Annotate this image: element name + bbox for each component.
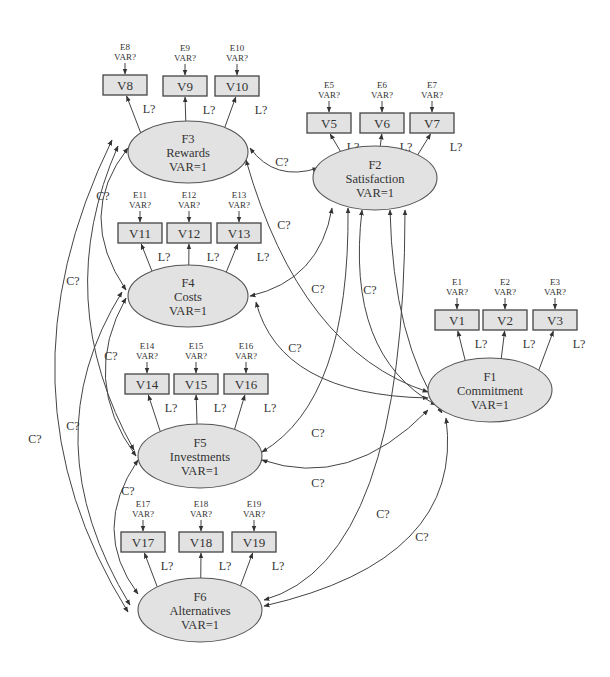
loading-arrow [501, 331, 504, 359]
factor-rewards[interactable]: F3RewardsVAR=1 [128, 121, 248, 183]
loading-arrow [225, 97, 236, 127]
indicator-v12: E12VAR?V12L? [167, 190, 219, 265]
error-term-label: E6 [377, 80, 387, 90]
error-variance-label: VAR? [228, 200, 250, 210]
loading-arrow [148, 395, 160, 431]
error-variance-label: VAR? [185, 351, 207, 361]
factor-name: Alternatives [169, 604, 230, 618]
indicator-v7: E7VAR?V7L? [410, 80, 462, 155]
indicator-label: V2 [497, 313, 513, 328]
indicator-v14: E14VAR?V14L? [125, 341, 177, 431]
loading-label: L? [255, 103, 268, 117]
loading-label: L? [203, 103, 216, 117]
factor-id: F5 [193, 436, 206, 450]
error-variance-label: VAR? [132, 509, 154, 519]
indicator-label: V12 [178, 226, 200, 241]
covariance-label: C? [311, 282, 324, 296]
error-variance-label: VAR? [129, 200, 151, 210]
indicator-v1: E1VAR?V1L? [435, 277, 487, 361]
factor-investments[interactable]: F5InvestmentsVAR=1 [138, 424, 262, 488]
indicator-v19: E19VAR?V19L? [232, 499, 284, 586]
factor-satisfaction[interactable]: F2SatisfactionVAR=1 [313, 146, 437, 210]
factor-costs[interactable]: F4CostsVAR=1 [128, 265, 248, 327]
indicator-v3: E3VAR?V3L? [533, 277, 585, 370]
error-term-label: E17 [136, 499, 151, 509]
indicator-label: V8 [117, 78, 133, 93]
indicator-label: V16 [235, 377, 258, 392]
covariance-label: C? [66, 419, 79, 433]
factor-alternatives[interactable]: F6AlternativesVAR=1 [138, 578, 262, 642]
indicator-label: V5 [321, 116, 337, 131]
loading-label: L? [207, 250, 220, 264]
loading-label: L? [158, 250, 171, 264]
loading-label: L? [257, 250, 270, 264]
loading-label: L? [264, 401, 277, 415]
indicator-v13: E13VAR?V13L? [217, 190, 269, 272]
loading-arrow [196, 395, 197, 424]
error-variance-label: VAR? [190, 509, 212, 519]
loading-label: L? [573, 337, 586, 351]
loading-label: L? [214, 401, 227, 415]
indicator-v9: E9VAR?V9L? [163, 43, 215, 121]
error-term-label: E9 [180, 43, 190, 53]
covariance-label: C? [277, 218, 290, 232]
loading-arrow [226, 244, 237, 272]
covariance-label: C? [376, 507, 389, 521]
error-variance-label: VAR? [446, 287, 468, 297]
indicator-label: V19 [243, 535, 265, 550]
loading-label: L? [219, 559, 232, 573]
error-term-label: E19 [247, 499, 262, 509]
error-term-label: E5 [324, 80, 334, 90]
loading-label: L? [165, 401, 178, 415]
covariance-label: C? [96, 189, 109, 203]
indicator-label: V17 [132, 535, 155, 550]
indicator-label: V3 [547, 313, 563, 328]
factor-id: F6 [193, 590, 206, 604]
error-term-label: E18 [194, 499, 209, 509]
indicator-v18: E18VAR?V18L? [179, 499, 231, 578]
error-term-label: E1 [452, 277, 462, 287]
covariance-label: C? [288, 341, 301, 355]
loading-label: L? [272, 559, 285, 573]
loading-arrow [141, 244, 152, 271]
loading-arrow [127, 96, 141, 133]
indicator-label: V18 [190, 535, 212, 550]
indicator-v11: E11VAR?V11L? [118, 190, 170, 271]
error-variance-label: VAR? [136, 351, 158, 361]
loading-arrow [418, 134, 431, 155]
error-variance-label: VAR? [243, 509, 265, 519]
factor-variance: VAR=1 [169, 304, 207, 318]
factor-id: F3 [181, 132, 194, 146]
error-variance-label: VAR? [371, 90, 393, 100]
error-variance-label: VAR? [494, 287, 516, 297]
covariance-label: C? [311, 476, 324, 490]
error-term-label: E13 [232, 190, 247, 200]
factor-variance: VAR=1 [471, 398, 509, 412]
loading-arrow [235, 395, 245, 429]
loading-label: L? [450, 140, 463, 154]
factor-commitment[interactable]: F1CommitmentVAR=1 [428, 358, 552, 422]
error-term-label: E14 [140, 341, 155, 351]
covariance-label: C? [121, 484, 134, 498]
covariance-label: C? [363, 283, 376, 297]
error-term-label: E12 [182, 190, 197, 200]
error-term-label: E11 [133, 190, 147, 200]
factor-variance: VAR=1 [181, 464, 219, 478]
factor-id: F1 [483, 370, 496, 384]
indicator-v10: E10VAR?V10L? [215, 43, 267, 127]
loading-label: L? [143, 102, 156, 116]
error-term-label: E15 [189, 341, 204, 351]
indicator-label: V6 [374, 116, 390, 131]
error-term-label: E10 [230, 43, 245, 53]
sem-path-diagram: C?C?C?C?C?C?C?C?C?C?C?C?C?C?C? E1VAR?V1L… [0, 0, 610, 677]
factor-name: Costs [174, 290, 202, 304]
indicator-label: V10 [226, 79, 248, 94]
factor-name: Satisfaction [345, 172, 405, 186]
indicator-label: V7 [424, 116, 440, 131]
error-variance-label: VAR? [114, 52, 136, 62]
indicator-label: V9 [177, 79, 193, 94]
indicator-label: V11 [129, 226, 151, 241]
error-term-label: E8 [120, 42, 130, 52]
loading-arrow [241, 553, 253, 586]
factor-name: Investments [170, 450, 231, 464]
